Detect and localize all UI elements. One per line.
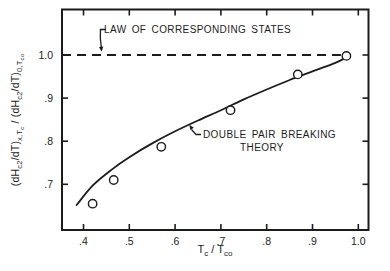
data-point (88, 200, 96, 208)
x-axis-label-sub-co: co (224, 249, 233, 258)
theory-annotation-line1: DOUBLE PAIR BREAKING (203, 129, 336, 140)
data-point (294, 70, 302, 78)
y-tick-label: .8 (44, 135, 53, 147)
data-point (226, 106, 234, 114)
x-axis-label: Tc / Tco (198, 243, 233, 258)
y-label-subsub: co (19, 53, 25, 60)
y-axis-label: (dHc2/dT)x,Tc / (dHc2/dT)0,Tco (9, 53, 25, 186)
figure: .4.5.6.7.8.91.01.0.9.8.7 LAW OF CORRESPO… (0, 0, 390, 271)
x-tick-label: .4 (79, 235, 88, 247)
x-axis-label-div: / T (208, 243, 224, 255)
y-label-sub: x,T (15, 130, 24, 141)
y-label-part: / (dH (9, 100, 21, 127)
y-label-sub: 0,T (15, 60, 24, 72)
y-label-part: /dT) (9, 72, 21, 91)
law-arrowhead-icon (99, 47, 103, 52)
data-point (342, 52, 350, 60)
chart-canvas: .4.5.6.7.8.91.01.0.9.8.7 LAW OF CORRESPO… (0, 0, 390, 271)
x-tick-label: .8 (262, 235, 271, 247)
y-label-part: (dH (9, 169, 21, 187)
data-point (157, 143, 165, 151)
y-tick-label: .9 (44, 92, 53, 104)
x-tick-label: 1.0 (351, 235, 366, 247)
y-label-sub: c2 (15, 160, 24, 168)
theory-annotation-line2: THEORY (240, 142, 284, 153)
y-axis-label-group: (dHc2/dT)x,Tc / (dHc2/dT)0,Tco (9, 53, 25, 186)
y-tick-label: .7 (44, 178, 53, 190)
ticks-group: .4.5.6.7.8.91.01.0.9.8.7 (38, 10, 368, 247)
y-label-sub: c2 (15, 91, 24, 99)
x-tick-label: .5 (125, 235, 134, 247)
y-label-part: /dT) (9, 141, 21, 160)
theory-arrowhead-icon (189, 125, 194, 130)
theory-leader-line (192, 130, 202, 135)
x-tick-label: .6 (171, 235, 180, 247)
plot-frame (62, 10, 369, 231)
x-tick-label: .9 (308, 235, 317, 247)
y-tick-label: 1.0 (38, 49, 53, 61)
data-point (110, 176, 118, 184)
law-annotation: LAW OF CORRESPONDING STATES (104, 24, 291, 35)
